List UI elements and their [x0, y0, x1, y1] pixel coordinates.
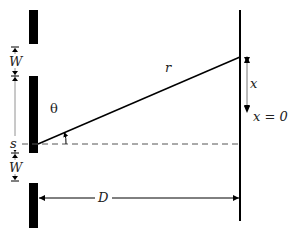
arrow-s-top	[12, 77, 18, 81]
label-distance: D	[97, 190, 109, 205]
label-x: x	[250, 76, 258, 91]
barrier-middle	[29, 76, 38, 153]
label-x-origin: x = 0	[253, 109, 288, 124]
x-arrow-head-top	[244, 56, 250, 63]
d-arrow-head-right	[233, 195, 239, 201]
label-slit-width: W	[9, 54, 24, 69]
x-arrow-head-bottom	[244, 106, 250, 113]
arrow-w-top	[12, 48, 18, 52]
angle-arc	[65, 133, 67, 144]
arrow-w2-top	[12, 154, 18, 158]
ray-r	[38, 57, 240, 144]
double-slit-diagram: W s W r θ x x = 0 D	[0, 0, 290, 228]
label-angle: θ	[50, 101, 58, 116]
barrier-top	[29, 10, 38, 44]
label-slit-width-lower: W	[9, 160, 24, 175]
arrow-w-bottom	[12, 71, 18, 75]
label-slit-separation: s	[10, 136, 17, 151]
barrier-bottom	[29, 183, 38, 228]
arrow-w2-bottom	[12, 176, 18, 180]
label-path-r: r	[165, 60, 172, 75]
d-arrow-head-left	[39, 195, 45, 201]
